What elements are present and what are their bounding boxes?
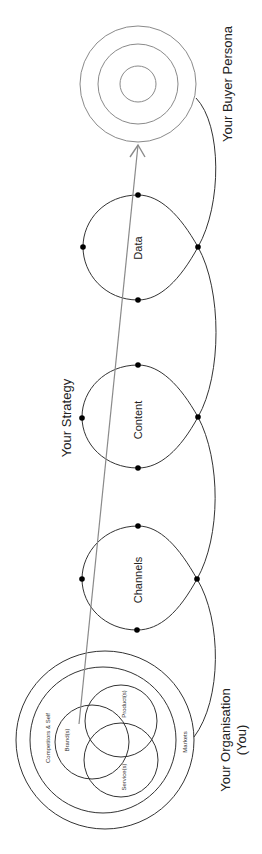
organisation-diagram (16, 651, 194, 829)
service-label: Service(s) (121, 763, 127, 790)
node-dot (195, 414, 201, 420)
node-dot (135, 362, 141, 368)
stage-label-content: Content (132, 401, 144, 440)
product-label: Product(s) (121, 690, 127, 718)
organisation-you-label: (You) (234, 725, 249, 756)
target-middle-ring (98, 44, 178, 124)
node-dot (79, 415, 85, 421)
connector-data-content (198, 247, 216, 417)
organisation-label: Your Organisation (218, 688, 233, 792)
marketing-strategy-diagram: Your Buyer Persona Data Content Channels… (0, 0, 262, 854)
stage-label-channels: Channels (132, 556, 144, 603)
node-dot (195, 244, 201, 250)
buyer-persona-target (80, 26, 196, 142)
buyer-persona-label: Your Buyer Persona (220, 25, 235, 142)
node-dot (135, 297, 141, 303)
node-dot (135, 523, 141, 529)
node-dot (194, 576, 200, 582)
node-dot (135, 465, 141, 471)
node-dot (135, 192, 141, 198)
stage-label-data: Data (132, 236, 144, 260)
connector-target-data (196, 98, 216, 247)
connector-channels-organisation (194, 579, 215, 737)
node-dot (79, 576, 85, 582)
target-outer-ring (80, 26, 196, 142)
arrow-shaft (79, 145, 138, 724)
strategy-label: Your Strategy (59, 378, 74, 457)
brand-label: Brand(s) (64, 728, 70, 751)
competitors-ring (16, 651, 194, 829)
target-inner-ring (120, 66, 156, 102)
markets-ring (30, 667, 176, 813)
node-dot (134, 627, 140, 633)
markets-label: Markets (182, 731, 188, 752)
competitors-self-label: Competitors & Self (45, 713, 51, 763)
connector-content-channels (197, 417, 215, 579)
node-dot (80, 244, 86, 250)
